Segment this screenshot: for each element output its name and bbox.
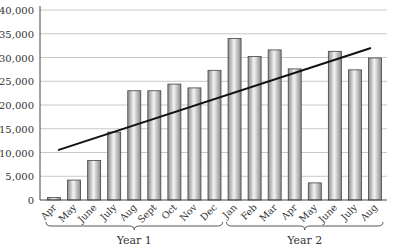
- y-tick-label: 15,000: [0, 124, 34, 135]
- y-tick-label: 40,000: [0, 5, 34, 16]
- y-tick-label: 30,000: [0, 53, 34, 64]
- y-tick-label: 25,000: [0, 76, 34, 87]
- bar: [288, 69, 301, 200]
- group-brace: [46, 222, 223, 230]
- bar: [128, 91, 141, 200]
- x-tick-label: June: [75, 201, 99, 225]
- y-tick-label: 20,000: [0, 100, 34, 111]
- x-tick-label: Aug: [117, 202, 139, 224]
- bars: [48, 39, 382, 201]
- bar: [368, 58, 381, 200]
- y-tick-label: 35,000: [0, 29, 34, 40]
- bar: [328, 51, 341, 200]
- y-tick-label: 10,000: [0, 148, 34, 159]
- x-tick-label: June: [315, 201, 339, 225]
- y-tick-label: 5,000: [5, 171, 34, 182]
- bar-chart: 05,00010,00015,00020,00025,00030,00035,0…: [0, 0, 395, 251]
- x-axis-ticks: AprMayJuneJulyAugSeptOctNovDecJanFebMarA…: [38, 201, 380, 225]
- x-tick-label: Nov: [177, 201, 199, 223]
- year-groups: Year 1Year 2: [46, 222, 383, 247]
- x-tick-label: Dec: [198, 202, 219, 223]
- x-tick-label: Jan: [219, 202, 239, 222]
- bar: [88, 161, 101, 200]
- x-tick-label: July: [97, 201, 119, 223]
- group-label: Year 2: [286, 234, 322, 247]
- x-tick-label: Sept: [135, 202, 158, 225]
- bar: [308, 183, 321, 200]
- x-tick-label: Apr: [278, 201, 299, 222]
- bar: [268, 50, 281, 200]
- y-tick-label: 0: [28, 195, 34, 206]
- bar: [148, 91, 161, 200]
- x-tick-label: Oct: [159, 202, 179, 222]
- chart-canvas: 05,00010,00015,00020,00025,00030,00035,0…: [0, 0, 395, 251]
- group-label: Year 1: [116, 234, 152, 247]
- bar: [68, 180, 81, 200]
- x-tick-label: May: [297, 201, 320, 224]
- bar: [208, 70, 221, 200]
- y-axis-ticks: 05,00010,00015,00020,00025,00030,00035,0…: [0, 5, 34, 206]
- x-tick-label: Mar: [257, 201, 279, 223]
- bar: [248, 57, 261, 200]
- x-tick-label: Aug: [357, 202, 379, 224]
- x-tick-label: July: [338, 201, 360, 223]
- bar: [348, 70, 361, 200]
- bar: [228, 39, 241, 201]
- bar: [168, 84, 181, 200]
- bar: [108, 132, 121, 200]
- x-tick-label: Feb: [239, 202, 259, 222]
- x-tick-label: Apr: [38, 201, 59, 222]
- x-tick-label: May: [56, 201, 79, 224]
